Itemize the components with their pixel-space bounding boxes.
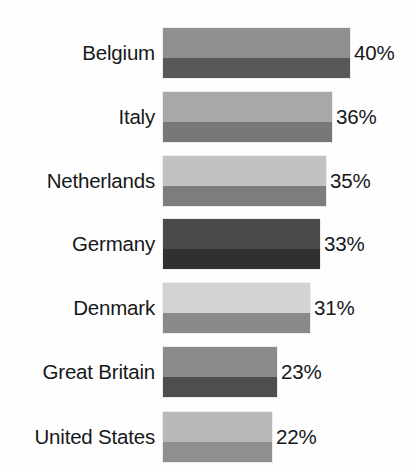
- value-label: 40%: [354, 43, 394, 64]
- value-label: 36%: [336, 107, 376, 128]
- value-label: 23%: [281, 362, 321, 383]
- value-label: 33%: [324, 234, 364, 255]
- value-label: 22%: [276, 427, 316, 448]
- bar-segment-upper: [163, 28, 350, 58]
- bar-germany: [163, 219, 320, 269]
- value-label: 31%: [314, 298, 354, 319]
- bar-row: Great Britain23%: [0, 347, 414, 397]
- category-label: Germany: [5, 234, 155, 255]
- bar-segment-lower: [163, 186, 326, 206]
- category-label: Great Britain: [5, 362, 155, 383]
- category-label: Denmark: [5, 298, 155, 319]
- bar-segment-lower: [163, 377, 277, 397]
- bar-united-states: [163, 412, 272, 462]
- bar-segment-lower: [163, 249, 320, 269]
- bar-row: Italy36%: [0, 92, 414, 142]
- bar-segment-upper: [163, 412, 272, 442]
- bar-chart: Belgium40%Italy36%Netherlands35%Germany3…: [0, 0, 414, 468]
- bar-segment-upper: [163, 92, 332, 122]
- category-label: Italy: [5, 107, 155, 128]
- bar-row: Netherlands35%: [0, 156, 414, 206]
- bar-netherlands: [163, 156, 326, 206]
- bar-row: Denmark31%: [0, 283, 414, 333]
- bar-row: Belgium40%: [0, 28, 414, 78]
- category-label: United States: [5, 427, 155, 448]
- bar-segment-upper: [163, 347, 277, 377]
- bar-segment-upper: [163, 156, 326, 186]
- bar-segment-lower: [163, 58, 350, 78]
- bar-segment-lower: [163, 442, 272, 462]
- bar-italy: [163, 92, 332, 142]
- bar-denmark: [163, 283, 310, 333]
- bar-segment-lower: [163, 122, 332, 142]
- value-label: 35%: [330, 171, 370, 192]
- bar-segment-upper: [163, 219, 320, 249]
- category-label: Netherlands: [5, 171, 155, 192]
- bar-row: Germany33%: [0, 219, 414, 269]
- bar-great-britain: [163, 347, 277, 397]
- bar-segment-upper: [163, 283, 310, 313]
- category-label: Belgium: [5, 43, 155, 64]
- bar-row: United States22%: [0, 412, 414, 462]
- bar-belgium: [163, 28, 350, 78]
- bar-segment-lower: [163, 313, 310, 333]
